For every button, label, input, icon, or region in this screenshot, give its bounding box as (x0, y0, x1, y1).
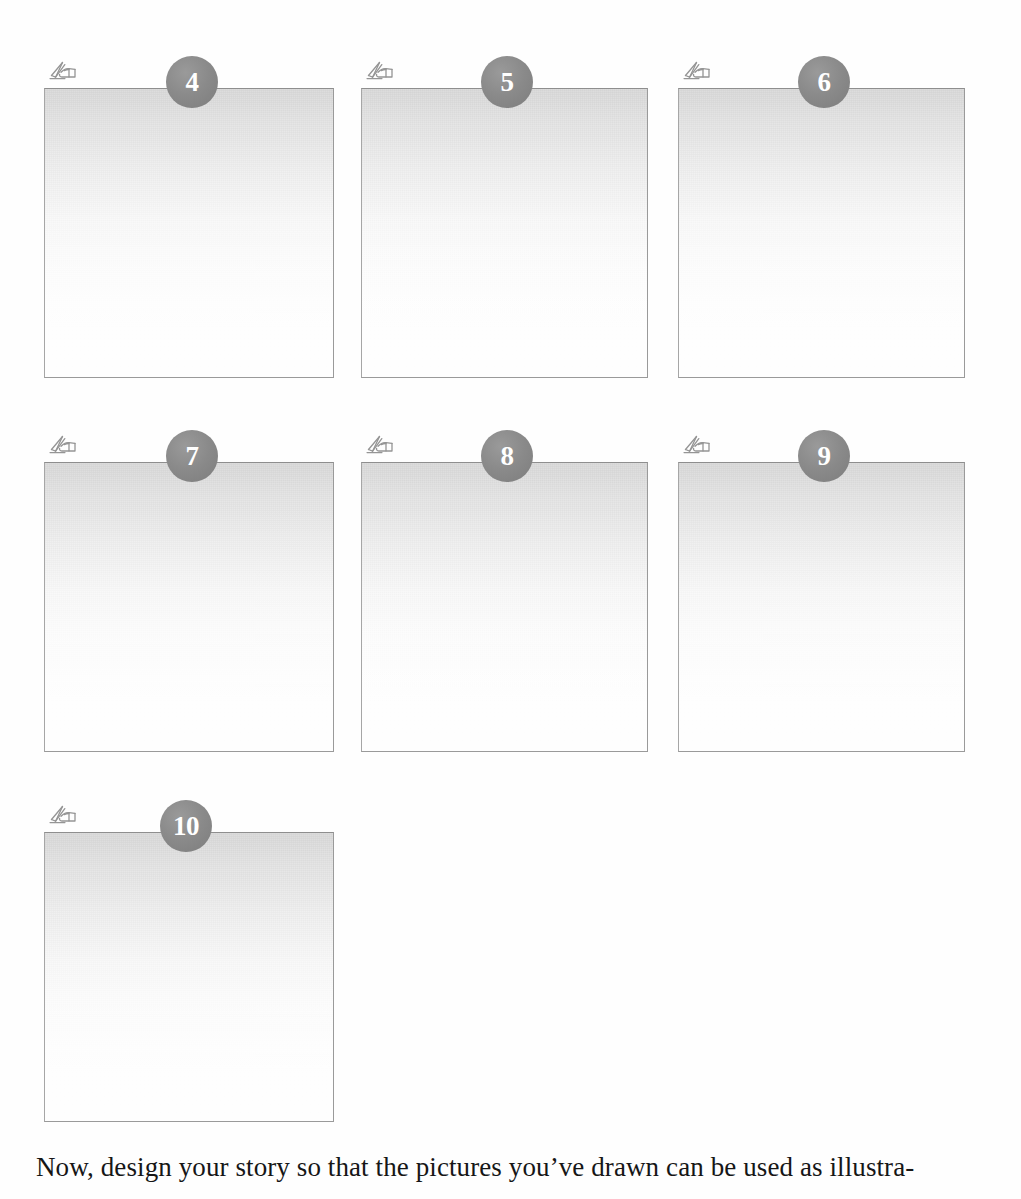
drawing-area-5[interactable] (361, 88, 648, 378)
page-caption: Now, design your story so that the pictu… (36, 1150, 988, 1184)
hand-drawing-pencil-icon (365, 430, 399, 460)
panel-number-badge: 8 (481, 430, 533, 482)
drawing-area-8[interactable] (361, 462, 648, 752)
panel-number-badge: 4 (166, 56, 218, 108)
drawing-area-9[interactable] (678, 462, 965, 752)
hand-drawing-pencil-icon (48, 56, 82, 86)
hand-drawing-pencil-icon (365, 56, 399, 86)
hand-drawing-pencil-icon (48, 800, 82, 830)
drawing-panel-4[interactable]: 4 (44, 56, 334, 378)
drawing-panel-10[interactable]: 10 (44, 800, 334, 1122)
drawing-panel-6[interactable]: 6 (678, 56, 965, 378)
drawing-area-7[interactable] (44, 462, 334, 752)
panel-number-badge: 10 (160, 800, 212, 852)
panel-number-badge: 6 (798, 56, 850, 108)
drawing-area-4[interactable] (44, 88, 334, 378)
drawing-area-10[interactable] (44, 832, 334, 1122)
drawing-panel-grid: 45678910 (0, 0, 1021, 1135)
drawing-panel-5[interactable]: 5 (361, 56, 648, 378)
hand-drawing-pencil-icon (682, 430, 716, 460)
drawing-panel-8[interactable]: 8 (361, 430, 648, 752)
drawing-panel-7[interactable]: 7 (44, 430, 334, 752)
panel-number-badge: 9 (798, 430, 850, 482)
worksheet-page: 45678910 Now, design your story so that … (0, 0, 1021, 1199)
drawing-panel-9[interactable]: 9 (678, 430, 965, 752)
hand-drawing-pencil-icon (48, 430, 82, 460)
panel-number-badge: 5 (481, 56, 533, 108)
hand-drawing-pencil-icon (682, 56, 716, 86)
drawing-area-6[interactable] (678, 88, 965, 378)
panel-number-badge: 7 (166, 430, 218, 482)
